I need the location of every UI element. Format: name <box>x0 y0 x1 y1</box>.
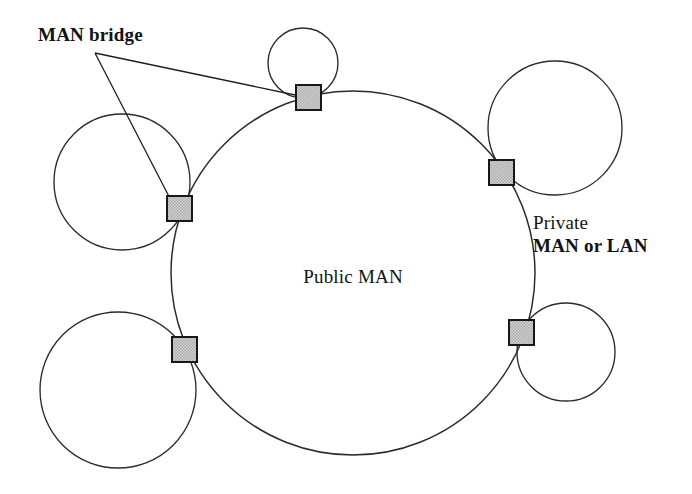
network-topology-figure: MAN bridge Public MAN Private MAN or LAN <box>0 0 692 494</box>
bridge-top[interactable] <box>296 85 321 110</box>
left-private-network-ring <box>54 114 190 250</box>
bridge-left[interactable] <box>167 196 192 221</box>
private-network-label-line1: Private <box>533 212 588 233</box>
public-man-label: Public MAN <box>303 266 403 287</box>
diagram-canvas: MAN bridge Public MAN Private MAN or LAN <box>0 0 692 494</box>
lower-left-private-network-ring <box>40 312 196 468</box>
lower-right-private-network-ring <box>517 303 615 401</box>
bridge-lower-left[interactable] <box>172 337 197 362</box>
bridge-lower-right[interactable] <box>509 320 534 345</box>
bridge-upper-right[interactable] <box>489 160 514 185</box>
private-network-label-line2: MAN or LAN <box>533 235 648 256</box>
man-bridge-label: MAN bridge <box>38 24 143 45</box>
leader-line-to-left-bridge <box>95 53 178 214</box>
